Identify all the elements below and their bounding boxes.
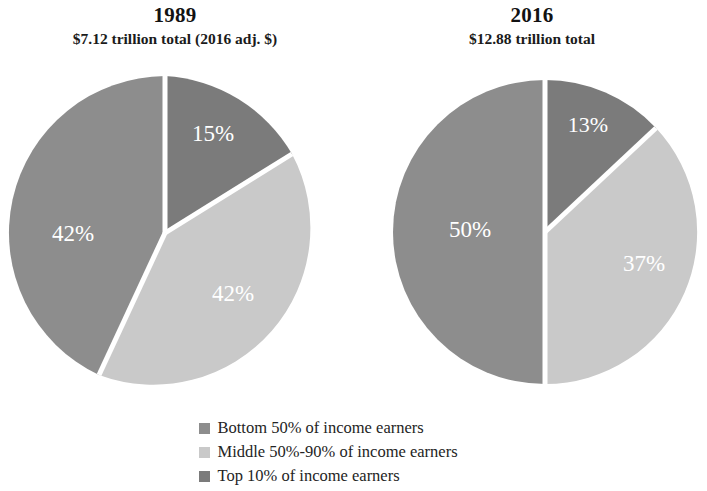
legend-item-bottom-50: Bottom 50% of income earners	[199, 416, 509, 440]
panel-header-2016: 2016 $12.88 trillion total	[357, 2, 707, 50]
legend-item-middle-50-90: Middle 50%-90% of income earners	[199, 440, 509, 464]
pie-label-bottom-1989: 42%	[52, 221, 94, 246]
pie-label-middle-2016: 37%	[623, 251, 665, 276]
panel-title-1989: 1989	[0, 2, 350, 28]
pie-chart-figure: 1989 $7.12 trillion total (2016 adj. $) …	[0, 0, 707, 491]
legend-label-middle-50-90: Middle 50%-90% of income earners	[218, 440, 458, 464]
pie-label-middle-1989: 42%	[212, 281, 254, 306]
panel-header-1989: 1989 $7.12 trillion total (2016 adj. $)	[0, 2, 350, 50]
panel-subtitle-2016: $12.88 trillion total	[357, 28, 707, 50]
legend: Bottom 50% of income earners Middle 50%-…	[0, 416, 707, 488]
legend-swatch-icon-top-10	[199, 471, 210, 482]
panel-title-2016: 2016	[357, 2, 707, 28]
panel-subtitle-1989: $7.12 trillion total (2016 adj. $)	[0, 28, 350, 50]
pie-label-bottom-2016: 50%	[449, 217, 491, 242]
pie-label-top10-2016: 13%	[568, 112, 608, 137]
legend-item-top-10: Top 10% of income earners	[199, 464, 509, 488]
pie-chart-2016: 13% 37% 50%	[392, 79, 700, 391]
pie-chart-1989: 15% 42% 42%	[7, 74, 323, 394]
legend-swatch-icon-middle-50-90	[199, 447, 210, 458]
legend-swatch-icon-bottom-50	[199, 423, 210, 434]
pie-label-top10-1989: 15%	[192, 121, 234, 146]
legend-label-top-10: Top 10% of income earners	[218, 464, 400, 488]
legend-label-bottom-50: Bottom 50% of income earners	[218, 416, 424, 440]
